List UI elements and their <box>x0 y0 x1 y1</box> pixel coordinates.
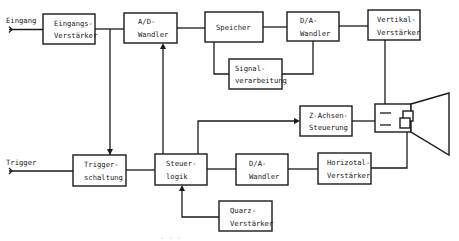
svg-text:logik: logik <box>166 172 188 181</box>
svg-text:Vertikal-: Vertikal- <box>377 15 416 24</box>
svg-text:Eingangs-: Eingangs- <box>54 19 93 28</box>
block-quarz-verstaerker: Quarz- Verstärker <box>219 201 274 231</box>
svg-text:Quarz-: Quarz- <box>230 206 256 215</box>
trigger-terminal-icon <box>9 168 73 174</box>
trigger-label: Trigger <box>6 158 37 167</box>
svg-text:Wandler: Wandler <box>249 172 280 181</box>
block-z-achsen-steuerung: Z-Achsen- Steuerung <box>300 106 352 136</box>
svg-text:Trigger-: Trigger- <box>84 160 119 169</box>
svg-text:Steuerung: Steuerung <box>309 123 348 132</box>
arrow-down-icon <box>107 149 113 155</box>
svg-text:Z-Achsen-: Z-Achsen- <box>309 111 348 120</box>
svg-text:Wandler: Wandler <box>300 29 331 38</box>
arrow-right-icon <box>294 118 300 124</box>
eingang-terminal-icon <box>9 27 43 33</box>
svg-text:verarbeitung: verarbeitung <box>235 76 287 85</box>
oscilloscope-block-diagram: Eingang Trigger <box>0 0 459 241</box>
svg-text:Wandler: Wandler <box>138 30 169 39</box>
svg-text:Verstärker: Verstärker <box>54 31 98 40</box>
block-signalverarbeitung: Signal- verarbeitung <box>229 59 287 89</box>
svg-text:Signal-: Signal- <box>235 64 265 73</box>
arrow-up-icon <box>160 43 166 49</box>
svg-text:D/A-: D/A- <box>300 16 317 25</box>
block-vertikal-verstaerker: Vertikal- Verstärker <box>368 10 421 40</box>
block-eingangs-verstaerker: Eingangs- Verstärker <box>43 14 98 44</box>
svg-text:Verstärker: Verstärker <box>377 28 421 37</box>
svg-text:Speicher: Speicher <box>216 23 251 32</box>
block-triggerschaltung: Trigger- schaltung <box>73 155 126 186</box>
signal-wires <box>95 26 407 217</box>
block-da-wandler-top: D/A- Wandler <box>287 12 339 41</box>
svg-text:Verstärker: Verstärker <box>327 171 371 180</box>
svg-text:Steuer-: Steuer- <box>166 159 196 168</box>
eingang-label: Eingang <box>6 16 36 25</box>
block-da-wandler-bottom: D/A- Wandler <box>236 154 288 185</box>
svg-text:D/A-: D/A- <box>249 159 266 168</box>
block-steuerlogik: Steuer- logik <box>155 154 207 185</box>
arrow-up-icon <box>179 185 185 191</box>
crt-tube-icon <box>375 93 449 155</box>
block-ad-wandler: A/D- Wandler <box>124 13 177 43</box>
svg-text:Verstärker: Verstärker <box>230 219 274 228</box>
svg-text:Horizotal-: Horizotal- <box>327 158 370 167</box>
block-horizontal-verstaerker: Horizotal- Verstärker <box>318 153 371 184</box>
svg-text:A/D-: A/D- <box>138 17 155 26</box>
caption-fragment: - - - <box>160 234 181 241</box>
block-speicher: Speicher <box>205 12 263 42</box>
svg-text:schaltung: schaltung <box>84 173 123 182</box>
